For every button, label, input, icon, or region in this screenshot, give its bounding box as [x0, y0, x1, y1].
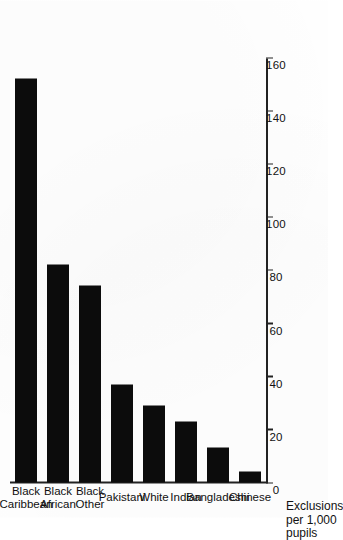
value-axis-tick-label: 0: [273, 483, 280, 495]
value-axis-title-line-2: per 1,000: [286, 513, 343, 527]
value-axis-tick-label: 40: [269, 377, 282, 389]
category-label: White: [139, 491, 168, 504]
value-axis-tick: [266, 322, 273, 323]
plot-area: 020406080100120140160 BlackCaribbeanBlac…: [10, 58, 266, 483]
bar: [47, 264, 69, 482]
category-label-line: Black: [40, 485, 76, 498]
category-label-line: African: [40, 497, 76, 510]
bar: [111, 384, 133, 482]
category-label: BlackAfrican: [40, 485, 76, 510]
value-axis-title-line-3: pupils: [286, 526, 343, 540]
value-axis-title-line-1: Exclusions: [286, 499, 343, 513]
value-axis-title: Exclusions per 1,000 pupils: [286, 499, 343, 540]
category-label-line: White: [139, 491, 168, 504]
bar: [207, 447, 229, 482]
value-axis-tick-label: 120: [266, 164, 286, 176]
category-label: Chinese: [229, 491, 271, 504]
value-axis-tick-label: 100: [266, 217, 286, 229]
bar: [79, 285, 101, 482]
value-axis-tick-label: 160: [266, 58, 286, 70]
value-axis-tick-label: 140: [266, 111, 286, 123]
value-axis-tick-label: 80: [269, 271, 282, 283]
value-axis-tick-label: 60: [269, 324, 282, 336]
bar: [239, 471, 261, 482]
category-label-line: Chinese: [229, 491, 271, 504]
value-axis-tick-label: 20: [269, 430, 282, 442]
bar: [15, 78, 37, 482]
bar: [143, 405, 165, 482]
bar: [175, 421, 197, 482]
